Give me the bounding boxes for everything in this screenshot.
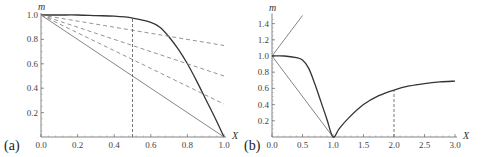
- x-tick-label: 3.0: [449, 140, 461, 150]
- panel-label: (a): [4, 138, 20, 154]
- x-tick-label: 0.6: [145, 140, 157, 150]
- axes: 0.00.51.01.52.02.53.00.20.40.60.81.01.21…: [258, 2, 470, 151]
- x-tick-label: 2.5: [419, 140, 431, 150]
- y-axis-label: m: [38, 1, 45, 12]
- x-axis-label: X: [231, 130, 239, 141]
- y-tick-label: 0.6: [27, 59, 39, 69]
- panel-label: (b): [244, 138, 261, 154]
- series-falling-line: [272, 56, 333, 137]
- y-tick-label: 1.4: [258, 19, 270, 29]
- x-axis-label: X: [462, 130, 470, 141]
- x-tick-label: 0.2: [72, 140, 83, 150]
- y-tick-label: 1.0: [258, 51, 270, 61]
- x-tick-label: 1.0: [327, 140, 339, 150]
- x-tick-label: 0.0: [35, 140, 47, 150]
- figure: 0.00.20.40.60.81.00.20.40.60.81.0Xm(a) 0…: [0, 0, 484, 157]
- x-tick-label: 2.0: [388, 140, 400, 150]
- series-rising-line: [272, 16, 303, 57]
- y-tick-label: 1.0: [27, 10, 39, 20]
- x-tick-label: 1.0: [218, 140, 230, 150]
- y-tick-label: 0.4: [258, 100, 270, 110]
- x-tick-label: 1.5: [358, 140, 370, 150]
- x-tick-label: 0.5: [297, 140, 309, 150]
- x-tick-label: 0.4: [109, 140, 121, 150]
- series-dark-curve: [272, 56, 455, 137]
- y-tick-label: 0.2: [27, 108, 38, 118]
- y-tick-label: 0.8: [27, 34, 39, 44]
- x-tick-label: 0.0: [266, 140, 278, 150]
- panel-b-chart: 0.00.51.01.52.02.53.00.20.40.60.81.01.21…: [244, 2, 470, 155]
- y-tick-label: 0.2: [258, 116, 269, 126]
- y-tick-label: 1.2: [258, 35, 269, 45]
- y-axis-label: m: [269, 2, 276, 13]
- panel-a-chart: 0.00.20.40.60.81.00.20.40.60.81.0Xm(a): [4, 1, 239, 154]
- y-tick-label: 0.4: [27, 83, 39, 93]
- y-tick-label: 0.8: [258, 67, 270, 77]
- y-tick-label: 0.6: [258, 83, 270, 93]
- x-tick-label: 0.8: [182, 140, 194, 150]
